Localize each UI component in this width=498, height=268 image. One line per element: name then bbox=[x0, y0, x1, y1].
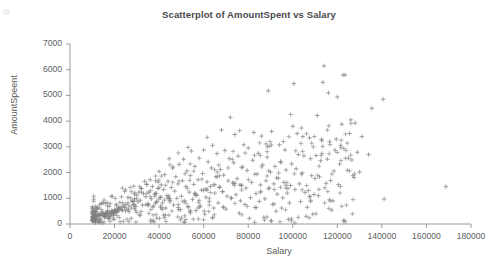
data-point bbox=[305, 205, 309, 209]
x-tick-label: 140000 bbox=[368, 231, 397, 241]
data-point bbox=[265, 174, 269, 178]
data-point bbox=[149, 207, 153, 211]
data-point bbox=[245, 168, 249, 172]
data-point bbox=[222, 173, 226, 177]
data-point bbox=[269, 219, 273, 223]
data-point bbox=[169, 185, 173, 189]
data-point bbox=[229, 196, 233, 200]
data-point bbox=[191, 169, 195, 173]
data-point bbox=[302, 154, 306, 158]
data-point bbox=[108, 201, 112, 205]
data-point bbox=[246, 146, 250, 150]
data-point bbox=[151, 213, 155, 217]
data-point bbox=[322, 201, 326, 205]
data-point bbox=[170, 180, 174, 184]
data-point bbox=[215, 151, 219, 155]
data-point bbox=[347, 169, 351, 173]
data-point bbox=[211, 206, 215, 210]
data-point bbox=[210, 216, 214, 220]
data-point bbox=[299, 126, 303, 130]
data-point bbox=[316, 194, 320, 198]
data-point bbox=[227, 156, 231, 160]
y-tick-label: 3000 bbox=[16, 141, 62, 151]
data-point bbox=[226, 179, 230, 183]
data-point bbox=[188, 173, 192, 177]
data-point bbox=[351, 197, 355, 201]
data-point bbox=[294, 167, 298, 171]
data-point bbox=[233, 201, 237, 205]
data-point bbox=[265, 155, 269, 159]
data-point bbox=[216, 201, 220, 205]
y-tick-marks bbox=[66, 44, 70, 224]
data-point bbox=[207, 203, 211, 207]
data-point bbox=[153, 174, 157, 178]
data-point bbox=[231, 149, 235, 153]
data-point bbox=[325, 128, 329, 132]
data-point bbox=[248, 196, 252, 200]
data-point bbox=[273, 164, 277, 168]
data-point bbox=[366, 152, 370, 156]
data-point bbox=[293, 187, 297, 191]
data-point bbox=[258, 190, 262, 194]
data-point bbox=[246, 178, 250, 182]
data-point bbox=[338, 191, 342, 195]
data-point bbox=[118, 200, 122, 204]
data-point bbox=[294, 149, 298, 153]
data-point bbox=[259, 134, 263, 138]
data-point bbox=[340, 122, 344, 126]
data-point bbox=[330, 172, 334, 176]
data-point bbox=[183, 214, 187, 218]
data-point bbox=[307, 136, 311, 140]
data-point bbox=[317, 164, 321, 168]
data-point bbox=[138, 213, 142, 217]
data-point bbox=[283, 148, 287, 152]
y-tick-label: 6000 bbox=[16, 64, 62, 74]
data-point bbox=[202, 209, 206, 213]
data-point bbox=[157, 186, 161, 190]
data-point bbox=[357, 170, 361, 174]
data-point bbox=[247, 216, 251, 220]
data-point bbox=[382, 197, 386, 201]
data-point bbox=[326, 189, 330, 193]
data-point bbox=[274, 209, 278, 213]
y-tick-label: 1000 bbox=[16, 192, 62, 202]
data-point bbox=[226, 166, 230, 170]
data-point bbox=[176, 215, 180, 219]
data-point bbox=[178, 218, 182, 222]
data-point bbox=[113, 196, 117, 200]
data-point bbox=[444, 185, 448, 189]
data-point bbox=[147, 211, 151, 215]
data-point bbox=[220, 190, 224, 194]
data-point bbox=[244, 186, 248, 190]
data-point bbox=[325, 157, 329, 161]
data-point bbox=[179, 194, 183, 198]
data-point bbox=[221, 205, 225, 209]
data-point bbox=[313, 176, 317, 180]
data-point bbox=[327, 124, 331, 128]
x-tick-label: 160000 bbox=[412, 231, 441, 241]
data-point bbox=[196, 178, 200, 182]
data-point bbox=[285, 180, 289, 184]
data-point bbox=[161, 187, 165, 191]
data-point bbox=[166, 179, 170, 183]
data-point bbox=[289, 162, 293, 166]
data-point bbox=[315, 113, 319, 117]
data-point bbox=[345, 141, 349, 145]
data-point bbox=[200, 177, 204, 181]
data-point bbox=[318, 159, 322, 163]
x-tick-label: 0 bbox=[68, 231, 73, 241]
data-point bbox=[143, 203, 147, 207]
data-point bbox=[242, 143, 246, 147]
data-point bbox=[257, 199, 261, 203]
data-point bbox=[250, 158, 254, 162]
data-point bbox=[320, 151, 324, 155]
data-point bbox=[203, 212, 207, 216]
data-point bbox=[258, 141, 262, 145]
data-point bbox=[258, 183, 262, 187]
data-point bbox=[167, 213, 171, 217]
data-point bbox=[171, 203, 175, 207]
data-point bbox=[267, 186, 271, 190]
data-point bbox=[332, 169, 336, 173]
data-point bbox=[196, 217, 200, 221]
data-point bbox=[323, 186, 327, 190]
